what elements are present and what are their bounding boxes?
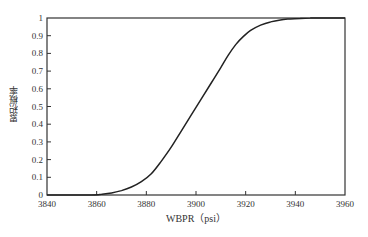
cdf-curve [47, 18, 345, 195]
y-tick-label: 0.4 [32, 119, 44, 129]
y-axis-label: 累积概率 [8, 86, 20, 122]
cdf-chart: 3840386038803900392039403960 00.10.20.30… [0, 0, 368, 237]
x-tick-label: 3840 [38, 199, 57, 209]
y-tick-label: 0.2 [32, 155, 43, 165]
x-axis-ticks: 3840386038803900392039403960 [38, 191, 355, 209]
y-tick-label: 0.8 [32, 48, 44, 58]
x-axis-label: WBPR（psi） [166, 213, 226, 224]
x-tick-label: 3920 [237, 199, 256, 209]
y-tick-label: 0.7 [32, 66, 44, 76]
y-tick-label: 0.3 [32, 137, 44, 147]
y-tick-label: 0.6 [32, 84, 44, 94]
x-tick-label: 3960 [336, 199, 355, 209]
y-tick-label: 1 [39, 13, 44, 23]
y-axis-ticks: 00.10.20.30.40.50.60.70.80.91 [32, 13, 51, 200]
y-tick-label: 0.9 [32, 31, 44, 41]
x-tick-label: 3880 [137, 199, 156, 209]
y-tick-label: 0 [39, 190, 44, 200]
y-tick-label: 0.5 [32, 102, 44, 112]
x-tick-label: 3940 [286, 199, 305, 209]
x-tick-label: 3860 [88, 199, 107, 209]
x-tick-label: 3900 [187, 199, 206, 209]
y-tick-label: 0.1 [32, 172, 43, 182]
